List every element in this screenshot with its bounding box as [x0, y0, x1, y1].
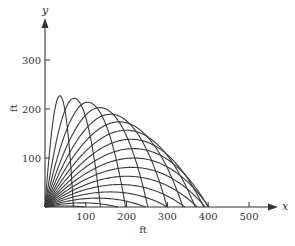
- x-tick-label: 200: [117, 211, 136, 222]
- x-axis-variable: x: [282, 200, 289, 213]
- x-tick-label: 500: [239, 211, 258, 222]
- x-axis-arrow-icon: [268, 204, 278, 211]
- y-axis-variable: y: [41, 4, 49, 17]
- trajectory-curves: [45, 96, 209, 207]
- y-axis-unit: ft: [8, 104, 19, 112]
- y-tick-label: 100: [22, 153, 41, 164]
- x-axis-unit: ft: [139, 224, 147, 235]
- x-tick-label: 300: [158, 211, 177, 222]
- y-tick-label: 200: [22, 104, 41, 115]
- y-ticks: 100200300: [22, 55, 50, 164]
- x-ticks: 100200300400500: [76, 202, 258, 222]
- projectile-trajectory-chart: 100200300400500 100200300 x y ft ft: [0, 0, 295, 246]
- y-axis-arrow-icon: [42, 18, 49, 28]
- x-tick-label: 100: [76, 211, 95, 222]
- x-tick-label: 400: [199, 211, 218, 222]
- y-tick-label: 300: [22, 55, 41, 66]
